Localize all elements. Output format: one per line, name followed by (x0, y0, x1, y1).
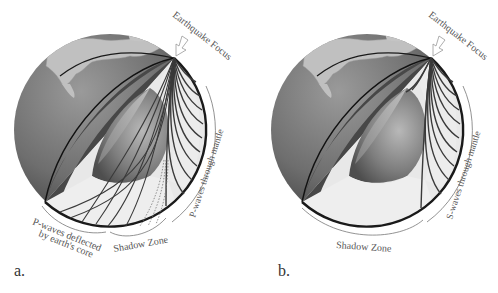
seismic-wave-diagram: Earthquake Focus P-waves through mantle … (0, 0, 498, 293)
earthquake-focus-arrow (433, 36, 445, 56)
shadow-zone-label: Shadow Zone (112, 233, 169, 254)
panel-a: Earthquake Focus P-waves through mantle … (14, 9, 234, 260)
land-greenland (385, 32, 413, 41)
panel-b: Earthquake Focus S-waves through mantle … (271, 9, 490, 254)
panel-b-letter: b. (278, 262, 290, 280)
earthquake-focus-arrow (176, 36, 188, 56)
earthquake-focus-label: Earthquake Focus (171, 9, 235, 62)
shadow-zone-label: Shadow Zone (336, 239, 392, 254)
panel-a-letter: a. (14, 262, 25, 280)
land-greenland (128, 32, 156, 41)
